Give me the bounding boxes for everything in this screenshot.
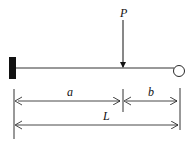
pin-support [174,66,185,77]
dim-b-label: b [148,85,154,99]
dim-L-label: L [102,109,110,123]
beam-diagram: P a b L [0,0,191,146]
dim-a-label: a [67,85,73,99]
load-label: P [119,6,128,20]
fixed-support [9,57,16,79]
